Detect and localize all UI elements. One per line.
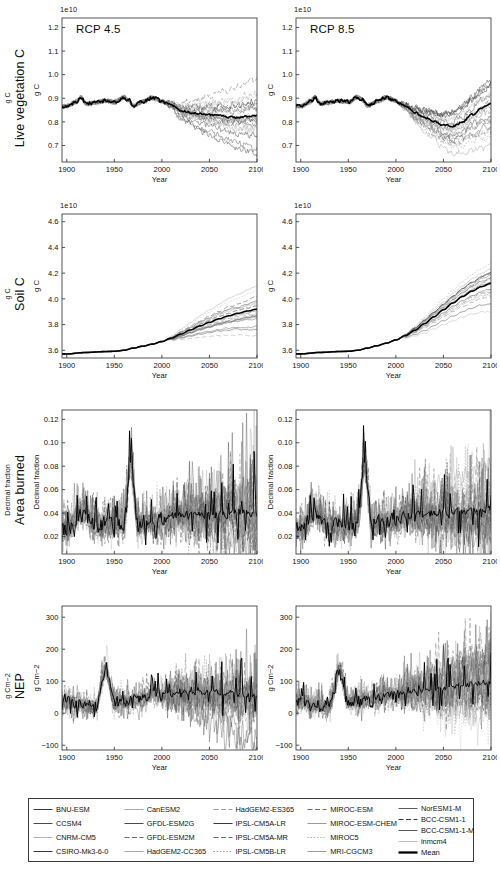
legend-label: GFDL-ESM2M — [147, 833, 195, 842]
plot-svg: 190019502000205021003.63.84.04.24.44.6 — [28, 196, 263, 392]
y-axis-label: Decimal fraction — [32, 455, 41, 509]
model-series-line — [62, 305, 257, 354]
series-group — [62, 411, 257, 554]
y-tick-label: 1.0 — [48, 70, 59, 79]
legend-column: MIROC-ESMMIROC-ESM-CHEMMIROC5MRI-CGCM3 — [307, 803, 398, 858]
legend-item[interactable]: IPSL-CM5B-LR — [213, 845, 308, 858]
legend-item[interactable]: MIROC-ESM — [307, 803, 398, 816]
legend-line-swatch — [398, 827, 418, 834]
model-series-line — [296, 91, 491, 121]
y-axis-label: g Cm−2 — [32, 665, 41, 692]
row-title: Area burned — [13, 455, 27, 525]
x-tick-label: 2050 — [201, 165, 218, 174]
legend-item[interactable]: BCC-CSM1-1 — [398, 814, 470, 824]
model-series-line — [62, 335, 257, 355]
x-tick-label: 1900 — [292, 165, 309, 174]
legend-item[interactable]: inmcm4 — [398, 837, 470, 847]
row-unit: Decimal fraction — [3, 464, 12, 516]
y-axis-label: g C — [32, 84, 41, 96]
model-series-line — [296, 292, 491, 354]
plot-svg: 190019502000205021000.020.040.060.080.10… — [28, 392, 263, 588]
legend-item[interactable]: HadGEM2-ES365 — [213, 803, 308, 816]
row-unit: g C — [3, 92, 12, 103]
panel-row-soil-c: Soil C g C 190019502000205021003.63.84.0… — [0, 196, 500, 392]
legend-item[interactable]: GFDL-ESM2M — [124, 831, 213, 844]
model-series-line — [62, 302, 257, 354]
x-tick-label: 2100 — [483, 361, 497, 370]
legend-line-swatch — [213, 834, 233, 841]
model-series-line — [62, 313, 257, 354]
y-tick-label: 0.8 — [282, 118, 293, 127]
legend-column: NorESM1-MBCC-CSM1-1BCC-CSM1-1-Minmcm4Mea… — [398, 803, 470, 858]
legend-label: CSIRO-Mk3-6-0 — [56, 847, 108, 856]
y-tick-label: 4.6 — [282, 217, 293, 226]
legend-line-swatch — [33, 848, 53, 855]
legend-item[interactable]: MIROC-ESM-CHEM — [307, 817, 398, 830]
y-tick-label: 0.12 — [44, 415, 59, 424]
legend-item[interactable]: BCC-CSM1-1-M — [398, 825, 470, 835]
series-group — [62, 629, 257, 750]
row-label-live-vegetation-c: Live vegetation C g C — [0, 0, 30, 196]
y-tick-label: 4.2 — [48, 269, 59, 278]
legend-line-swatch — [307, 834, 327, 841]
x-tick-label: 2100 — [249, 165, 263, 174]
legend-item[interactable]: MRI-CGCM3 — [307, 845, 398, 858]
series-group — [296, 612, 491, 749]
model-series-line — [296, 293, 491, 354]
y-tick-label: 0.04 — [278, 509, 293, 518]
legend-item[interactable]: BNU-ESM — [33, 803, 124, 816]
x-tick-label: 2000 — [387, 361, 404, 370]
legend-item[interactable]: CNRM-CM5 — [33, 831, 124, 844]
plot-svg: 19001950200020502100−1000100200300 — [28, 588, 263, 784]
legend-column: BNU-ESMCCSM4CNRM-CM5CSIRO-Mk3-6-0 — [33, 803, 124, 858]
model-series-line — [296, 279, 491, 354]
legend-label: MIROC-ESM-CHEM — [330, 819, 397, 828]
legend-line-swatch — [398, 849, 418, 856]
legend-item[interactable]: IPSL-CM5A-MR — [213, 831, 308, 844]
y-tick-label: 0.02 — [44, 532, 59, 541]
legend-label: inmcm4 — [421, 837, 447, 846]
row-label-area-burned: Area burned Decimal fraction — [0, 392, 30, 588]
legend-item[interactable]: CanESM2 — [124, 803, 213, 816]
plot-panel-nep-rcp85: 19001950200020502100−1000100200300g Cm−2… — [262, 588, 497, 784]
model-series-line — [296, 277, 491, 354]
y-tick-label: 1.1 — [282, 47, 293, 56]
axis-exponent-label: 1e10 — [294, 201, 312, 210]
legend-item[interactable]: CSIRO-Mk3-6-0 — [33, 845, 124, 858]
model-series-line — [62, 296, 257, 353]
panel-row-area-burned: Area burned Decimal fraction 19001950200… — [0, 392, 500, 588]
x-tick-label: 1900 — [292, 557, 309, 566]
y-tick-label: 0 — [54, 709, 58, 718]
x-tick-label: 2000 — [387, 165, 404, 174]
row-title: NEP — [13, 673, 27, 699]
model-series-line — [296, 274, 491, 354]
y-tick-label: 3.8 — [282, 320, 293, 329]
legend-item[interactable]: Mean — [398, 848, 470, 858]
legend-line-swatch — [398, 816, 418, 823]
axis-exponent-label: 1e10 — [60, 201, 78, 210]
y-tick-label: 300 — [46, 613, 59, 622]
legend-item[interactable]: MIROC5 — [307, 831, 398, 844]
legend-item[interactable]: IPSL-CM5A-LR — [213, 817, 308, 830]
legend-item[interactable]: CCSM4 — [33, 817, 124, 830]
y-tick-label: 3.8 — [48, 320, 59, 329]
y-tick-label: 1.2 — [48, 23, 59, 32]
y-tick-label: 0 — [288, 709, 292, 718]
x-tick-label: 1950 — [106, 557, 123, 566]
legend-label: GFDL-ESM2G — [147, 819, 195, 828]
legend-item[interactable]: HadGEM2-CC365 — [124, 845, 213, 858]
x-tick-label: 2050 — [435, 753, 452, 762]
y-tick-label: 4.2 — [282, 269, 293, 278]
model-series-line — [296, 290, 491, 355]
legend-item[interactable]: NorESM1-M — [398, 803, 470, 813]
x-axis-label: Year — [296, 371, 491, 380]
legend-line-swatch — [307, 820, 327, 827]
model-series-line — [62, 311, 257, 354]
legend-line-swatch — [307, 848, 327, 855]
legend-column: CanESM2GFDL-ESM2GGFDL-ESM2MHadGEM2-CC365 — [124, 803, 213, 858]
legend-line-swatch — [213, 806, 233, 813]
legend-label: BNU-ESM — [56, 805, 90, 814]
x-tick-label: 1950 — [106, 165, 123, 174]
legend-item[interactable]: GFDL-ESM2G — [124, 817, 213, 830]
x-tick-label: 1950 — [106, 753, 123, 762]
